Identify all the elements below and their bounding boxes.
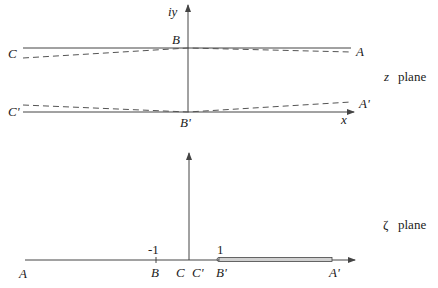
z-plane-title-word: plane <box>398 69 426 84</box>
z-lower-dashed-path <box>23 102 351 112</box>
zeta-label-C-prime: C' <box>192 265 204 280</box>
zeta-label-B: B <box>151 265 159 280</box>
z-label-B: B <box>172 32 180 47</box>
z-plane-title-symbol: z <box>383 69 389 84</box>
zeta-label-A: A <box>18 266 27 281</box>
z-axis-label-iy: iy <box>168 4 178 19</box>
z-plane: iy C B A C' B' A' x z plane <box>8 4 426 130</box>
z-label-A: A <box>355 44 364 59</box>
zeta-label-A-prime: A' <box>328 265 340 280</box>
zeta-label-B-prime: B' <box>216 265 227 280</box>
z-upper-dashed-path <box>23 48 351 58</box>
conformal-map-diagram: iy C B A C' B' A' x z plane -1 1 <box>0 0 438 288</box>
zeta-plane: -1 1 A B C C' B' A' ζ plane <box>18 153 426 281</box>
zeta-tick-label-minus-one: -1 <box>148 242 159 257</box>
z-label-C-prime: C' <box>8 104 20 119</box>
zeta-tick-label-one: 1 <box>217 242 224 257</box>
zeta-plane-title-symbol: ζ <box>383 217 389 232</box>
zeta-plane-title-word: plane <box>398 217 426 232</box>
z-axis-label-x: x <box>340 112 347 127</box>
zeta-branch-cut-slit <box>219 258 332 262</box>
z-label-A-prime: A' <box>358 96 370 111</box>
z-label-B-prime: B' <box>180 115 191 130</box>
z-label-C: C <box>8 46 17 61</box>
zeta-label-C: C <box>176 265 185 280</box>
